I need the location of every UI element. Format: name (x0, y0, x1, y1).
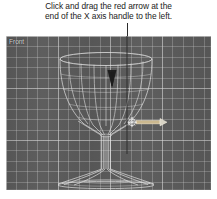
callout-arrow-head (108, 70, 117, 88)
viewport-front[interactable]: Front (6, 36, 211, 190)
callout-arrow (6, 36, 211, 190)
callout-leader-line (127, 23, 128, 37)
instruction-caption: Click and drag the red arrow at the end … (0, 1, 217, 21)
caption-line-1: Click and drag the red arrow at the (0, 1, 217, 11)
caption-line-2: end of the X axis handle to the left. (0, 11, 217, 21)
